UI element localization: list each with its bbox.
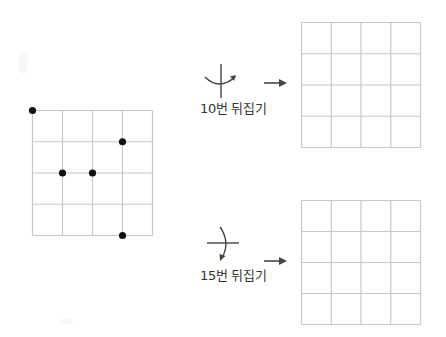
arrow-right-icon bbox=[264, 256, 288, 266]
grid-dot bbox=[29, 107, 36, 114]
flip-count-label-2: 15번 뒤집기 bbox=[200, 265, 267, 284]
scan-smudge bbox=[18, 52, 28, 74]
flip-vertical-icon bbox=[206, 225, 240, 265]
flip-diagram: 10번 뒤집기 15번 뒤집기 bbox=[0, 0, 446, 337]
source-grid bbox=[32, 110, 153, 236]
grid-dot bbox=[89, 169, 96, 176]
grid-dot bbox=[119, 138, 126, 145]
flip-count-label-1: 10번 뒤집기 bbox=[200, 98, 267, 117]
result-grid-1 bbox=[301, 22, 421, 148]
grid-dot bbox=[119, 232, 126, 239]
grid-dot bbox=[59, 169, 66, 176]
flip-horizontal-icon bbox=[203, 63, 239, 101]
arrow-right-icon bbox=[264, 78, 288, 88]
scan-smudge bbox=[60, 318, 74, 324]
result-grid-2 bbox=[301, 200, 421, 325]
